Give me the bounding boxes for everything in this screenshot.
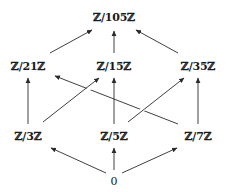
cropped-text-row (70, 186, 241, 192)
edge-3-to-15 (43, 78, 99, 122)
node-z5: ℤ/5ℤ (101, 130, 128, 143)
edge-35-to-105 (136, 30, 178, 53)
node-z105: ℤ/105ℤ (93, 11, 135, 24)
subgroup-lattice-diagram: ℤ/105ℤ ℤ/21ℤ ℤ/15ℤ ℤ/35ℤ ℤ/3ℤ ℤ/5ℤ ℤ/7ℤ … (0, 0, 241, 192)
edge-0-to-7 (122, 148, 177, 173)
edge-21-to-105 (50, 30, 92, 53)
node-z15: ℤ/15ℤ (97, 60, 131, 73)
edges-layer (0, 0, 241, 192)
node-z3: ℤ/3ℤ (15, 130, 42, 143)
node-z35: ℤ/35ℤ (181, 60, 215, 73)
edge-0-to-3 (51, 148, 106, 173)
edge-7-to-21 (55, 76, 178, 124)
node-z7: ℤ/7ℤ (185, 130, 212, 143)
node-z21: ℤ/21ℤ (11, 60, 45, 73)
